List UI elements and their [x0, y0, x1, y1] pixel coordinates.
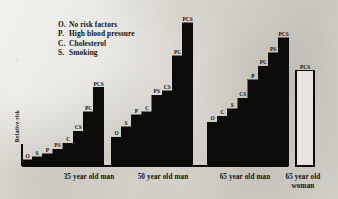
bar-value-label: P — [135, 108, 138, 114]
bar — [296, 71, 314, 166]
legend-label: High blood pressure — [69, 29, 135, 38]
legend: O. No risk factors P. High blood pressur… — [58, 20, 135, 58]
bar-value-label: O — [114, 130, 118, 136]
bar-value-label: PS — [54, 142, 61, 148]
legend-label: No risk factors — [69, 20, 117, 29]
bar — [258, 66, 268, 166]
legend-key: S. — [58, 48, 69, 57]
legend-item-1: P. High blood pressure — [58, 29, 135, 38]
bar-value-label: C — [221, 109, 225, 115]
bar-value-label: PCS — [278, 31, 288, 37]
bar-value-label: CS — [164, 84, 171, 90]
bar-value-label: CS — [75, 124, 82, 130]
bar — [248, 80, 258, 166]
bar — [131, 115, 141, 166]
bar — [73, 131, 83, 166]
bar-value-label: P — [46, 147, 49, 153]
bar — [111, 137, 121, 166]
legend-item-3: S. Smoking — [58, 48, 135, 57]
bar — [182, 23, 192, 166]
bar — [172, 56, 182, 166]
legend-label: Smoking — [69, 48, 98, 57]
bar-value-label: PC — [260, 59, 267, 65]
bar-value-label: S — [36, 150, 39, 156]
bar — [32, 157, 42, 166]
bar-value-label: PCS — [93, 81, 103, 87]
bar-value-label: CS — [239, 91, 246, 97]
legend-key: C. — [58, 39, 69, 48]
bar-value-label: PS — [154, 88, 161, 94]
bar — [22, 160, 32, 166]
bar — [238, 98, 248, 166]
legend-item-0: O. No risk factors — [58, 20, 135, 29]
bar-value-label: PS — [270, 46, 277, 52]
bar — [268, 53, 278, 166]
legend-key: P. — [58, 29, 69, 38]
bar — [278, 38, 288, 166]
bar-value-label: PCS — [182, 16, 192, 22]
bar-value-label: S — [125, 120, 128, 126]
bar — [207, 122, 217, 166]
bar — [152, 95, 162, 166]
bar — [217, 116, 227, 166]
bar-value-label: PC — [174, 49, 181, 55]
bar — [93, 87, 103, 166]
legend-item-2: C. Cholesterol — [58, 39, 135, 48]
bar-value-label: C — [145, 105, 149, 111]
bar-value-label: S — [231, 102, 234, 108]
bar — [63, 143, 73, 166]
bar — [227, 109, 237, 166]
bar-value-label: C — [66, 136, 70, 142]
bar — [83, 112, 93, 166]
bar — [42, 154, 52, 166]
legend-key: O. — [58, 20, 69, 29]
bar-value-label: PC — [85, 105, 92, 111]
bar — [53, 149, 63, 166]
y-axis-label: Relative risk — [14, 100, 20, 152]
bar-value-label: O — [210, 115, 214, 121]
legend-label: Cholesterol — [69, 39, 106, 48]
bar-value-label: PCS — [300, 64, 310, 70]
bar — [162, 91, 172, 167]
bar-value-label: P — [251, 73, 254, 79]
bar — [121, 127, 131, 166]
bar — [142, 112, 152, 166]
group-caption-65-year-old-woman: 65 year old woman — [272, 173, 334, 191]
bar-value-label: O — [25, 153, 29, 159]
